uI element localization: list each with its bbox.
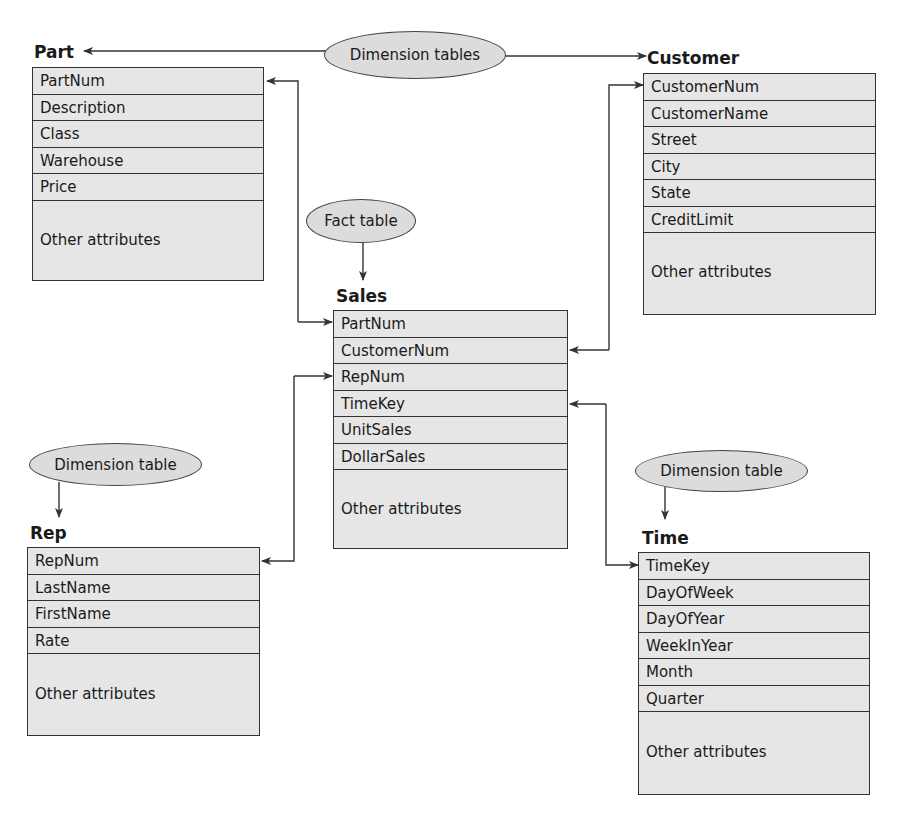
arrow-sales-to-time <box>606 404 638 565</box>
arrow-sales-to-customer <box>609 85 643 350</box>
time-attr-dayofweek: DayOfWeek <box>639 580 869 607</box>
time-other-attributes: Other attributes <box>639 712 869 792</box>
part-attr-class: Class <box>33 121 263 148</box>
time-attr-dayofyear: DayOfYear <box>639 606 869 633</box>
time-dimension-label: Dimension table <box>660 462 783 480</box>
time-attr-timekey: TimeKey <box>639 553 869 580</box>
customer-attr-customernum: CustomerNum <box>644 74 875 101</box>
sales-other-attributes: Other attributes <box>334 470 567 548</box>
part-table-title: Part <box>34 42 74 62</box>
dimension-tables-label: Dimension tables <box>350 46 480 64</box>
sales-attr-partnum: PartNum <box>334 311 567 338</box>
fact-table-label: Fact table <box>324 212 397 230</box>
customer-attr-state: State <box>644 180 875 207</box>
part-attr-description: Description <box>33 95 263 122</box>
customer-attr-street: Street <box>644 127 875 154</box>
part-other-attributes: Other attributes <box>33 201 263 279</box>
customer-attr-creditlimit: CreditLimit <box>644 207 875 234</box>
rep-other-attributes: Other attributes <box>28 654 259 734</box>
customer-attr-customername: CustomerName <box>644 101 875 128</box>
rep-attr-repnum: RepNum <box>28 548 259 575</box>
time-dimension-bubble: Dimension table <box>635 450 808 492</box>
rep-dimension-bubble: Dimension table <box>29 443 202 486</box>
customer-table: CustomerNum CustomerName Street City Sta… <box>643 73 876 315</box>
sales-attr-dollarsales: DollarSales <box>334 444 567 471</box>
rep-attr-lastname: LastName <box>28 575 259 602</box>
arrow-sales-to-rep <box>262 376 294 561</box>
sales-attr-repnum: RepNum <box>334 364 567 391</box>
part-attr-partnum: PartNum <box>33 68 263 95</box>
sales-attr-customernum: CustomerNum <box>334 338 567 365</box>
time-attr-weekinyear: WeekInYear <box>639 633 869 660</box>
time-table: TimeKey DayOfWeek DayOfYear WeekInYear M… <box>638 552 870 795</box>
rep-table-title: Rep <box>30 523 67 543</box>
fact-table-bubble: Fact table <box>306 199 416 243</box>
part-attr-warehouse: Warehouse <box>33 148 263 175</box>
time-attr-quarter: Quarter <box>639 686 869 713</box>
time-attr-month: Month <box>639 659 869 686</box>
rep-attr-rate: Rate <box>28 628 259 655</box>
time-table-title: Time <box>642 528 689 548</box>
rep-dimension-label: Dimension table <box>54 456 177 474</box>
part-table: PartNum Description Class Warehouse Pric… <box>32 67 264 281</box>
dimension-tables-bubble: Dimension tables <box>324 31 506 79</box>
rep-attr-firstname: FirstName <box>28 601 259 628</box>
part-attr-price: Price <box>33 174 263 201</box>
customer-table-title: Customer <box>647 48 739 68</box>
sales-attr-unitsales: UnitSales <box>334 417 567 444</box>
sales-attr-timekey: TimeKey <box>334 391 567 418</box>
arrow-sales-to-part <box>267 81 298 322</box>
sales-table-title: Sales <box>336 286 387 306</box>
customer-other-attributes: Other attributes <box>644 233 875 311</box>
rep-table: RepNum LastName FirstName Rate Other att… <box>27 547 260 736</box>
sales-table: PartNum CustomerNum RepNum TimeKey UnitS… <box>333 310 568 549</box>
customer-attr-city: City <box>644 154 875 181</box>
